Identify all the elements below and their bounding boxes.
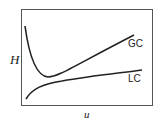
y-axis-label: H [10,52,19,68]
plot-frame [22,10,153,106]
lc-series-label: LC [128,73,141,84]
gc-curve [25,26,134,77]
lc-curve [26,70,142,99]
x-axis-label: u [84,108,90,120]
plot-area [0,0,161,123]
gc-series-label: GC [128,38,143,49]
